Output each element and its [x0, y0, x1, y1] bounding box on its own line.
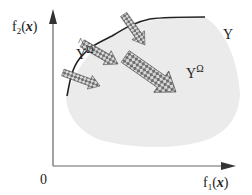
y-axis-arrowhead: [49, 9, 57, 24]
x-label-argument: x: [217, 175, 224, 190]
estimated-front-superscript: Ω: [86, 44, 93, 55]
y-axis-label: f2(x): [12, 20, 38, 36]
reachable-set-base: Y: [186, 66, 196, 81]
origin-label: 0: [40, 173, 47, 187]
estimated-front-label: ^ YΩ: [76, 45, 94, 62]
estimated-front-base: Y: [76, 47, 86, 62]
hat-accent: ^: [78, 36, 83, 47]
x-label-subscript: 1: [208, 182, 213, 192]
x-axis-label: f1(x): [203, 176, 229, 192]
reachable-set-label: YΩ: [186, 64, 204, 81]
y-label-argument: x: [26, 19, 33, 34]
y-label-subscript: 2: [17, 26, 22, 36]
reachable-set-superscript: Ω: [196, 63, 203, 74]
objective-space-label: Y: [223, 28, 233, 42]
x-axis-arrowhead: [221, 162, 236, 170]
